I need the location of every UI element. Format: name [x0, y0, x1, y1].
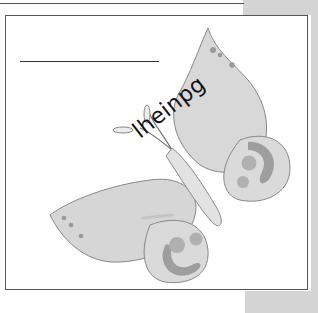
- butterfly-illustration: [0, 0, 318, 313]
